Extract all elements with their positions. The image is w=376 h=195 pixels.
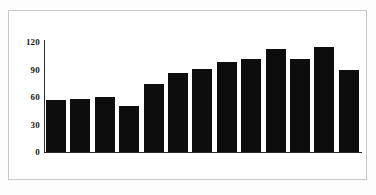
bar[interactable] [192,69,212,152]
bar[interactable] [314,47,334,152]
bars-layer: 5720065820076020085020097420108620119120… [44,0,364,195]
bar[interactable] [119,106,139,152]
bar[interactable] [266,49,286,152]
bar[interactable] [46,100,66,152]
y-tick-label: 120 [0,37,40,47]
bar[interactable] [290,59,310,153]
bar[interactable] [217,62,237,152]
y-tick-label: 0 [0,147,40,157]
bar[interactable] [144,84,164,152]
bar[interactable] [95,97,115,152]
bar[interactable] [168,73,188,152]
y-tick-label: 60 [0,92,40,102]
y-tick-label: 30 [0,120,40,130]
bar-chart-figure: 0306090120 57200658200760200850200974201… [0,0,376,195]
y-tick-label: 90 [0,65,40,75]
bar[interactable] [339,70,359,153]
y-axis: 0306090120 [0,0,40,195]
bar[interactable] [70,99,90,152]
bar[interactable] [241,59,261,153]
